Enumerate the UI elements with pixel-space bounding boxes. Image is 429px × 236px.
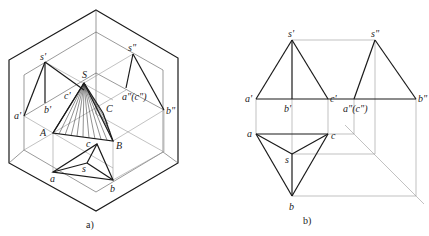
label-A: A [39, 127, 47, 138]
label-s-prime: s' [40, 51, 47, 62]
label-a-prime: a' [14, 110, 22, 121]
label-a-c-double: a"(c") [122, 91, 147, 103]
figure-a: s' s" S c' b' a' C a"(c") b" A B c s a b… [9, 10, 178, 231]
label-b-prime: b' [284, 103, 292, 114]
label-c: c [86, 138, 91, 149]
outer-hexagon [9, 10, 178, 211]
label-a-prime: a' [245, 93, 253, 104]
label-a: a [247, 128, 252, 139]
label-C: C [106, 103, 113, 114]
label-c: c [331, 130, 336, 141]
label-a-c-double: a"(c") [343, 103, 368, 115]
caption-a: a) [86, 219, 94, 231]
front-view [256, 40, 416, 99]
label-s: s [285, 154, 289, 165]
pyramid [53, 83, 113, 141]
label-s: s [82, 163, 86, 174]
label-b-prime: b' [44, 104, 52, 115]
label-B: B [116, 140, 122, 151]
projection-diagram: s' s" S c' b' a' C a"(c") b" A B c s a b… [0, 0, 429, 236]
label-s-double: s" [128, 42, 137, 53]
label-b-double: b" [166, 105, 176, 116]
label-b: b [289, 201, 294, 212]
figure-b: s' s" a' b' c' a"(c") b" a c s b b) [245, 28, 428, 227]
label-s-double: s" [371, 28, 380, 39]
label-b-double: b" [418, 93, 428, 104]
label-S: S [82, 69, 87, 80]
horizontal-projection [53, 144, 113, 180]
label-s-prime: s' [288, 28, 295, 39]
label-a: a [50, 173, 55, 184]
caption-b: b) [303, 215, 311, 227]
projection-connectors [256, 40, 424, 204]
label-b: b [110, 183, 115, 194]
label-c-prime: c' [330, 93, 337, 104]
label-c-prime: c' [64, 90, 71, 101]
side-view [354, 40, 416, 99]
